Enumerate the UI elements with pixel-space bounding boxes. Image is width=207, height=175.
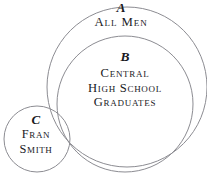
set-c-caption-line-2: Smith — [5, 142, 67, 156]
set-b-label: B Central High School Graduates — [62, 50, 188, 110]
set-c-letter: C — [5, 113, 67, 126]
set-c-caption-line-1: Fran — [5, 127, 67, 141]
set-b-caption-line-3: Graduates — [62, 95, 188, 110]
set-b-caption-line-2: High School — [62, 81, 188, 96]
set-b-letter: B — [62, 50, 188, 64]
set-b-caption-line-1: Central — [62, 66, 188, 81]
set-a-label: A All Men — [63, 1, 179, 29]
set-a-caption-line-1: All Men — [63, 16, 179, 29]
set-c-label: C Fran Smith — [5, 113, 67, 156]
venn-diagram: A All Men B Central High School Graduate… — [0, 0, 207, 175]
set-a-letter: A — [63, 1, 179, 15]
